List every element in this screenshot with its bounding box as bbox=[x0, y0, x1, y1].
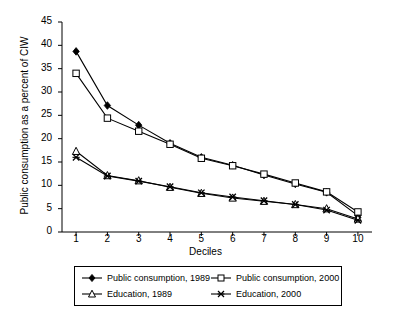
y-tick-label: 30 bbox=[30, 85, 52, 96]
x-tick-label: 1 bbox=[66, 233, 86, 244]
legend: Public consumption, 1989Public consumpti… bbox=[74, 266, 342, 306]
legend-item: Education, 2000 bbox=[210, 289, 339, 299]
x-tick-label: 2 bbox=[97, 233, 117, 244]
y-tick-label: 40 bbox=[30, 38, 52, 49]
legend-item: Public consumption, 1989 bbox=[81, 273, 210, 283]
x-tick-label: 5 bbox=[191, 233, 211, 244]
y-tick-label: 5 bbox=[30, 202, 52, 213]
x-cross-icon bbox=[210, 289, 232, 299]
axis-lines bbox=[58, 22, 372, 236]
y-axis-title: Public consumption as a percent of CIW bbox=[19, 16, 30, 236]
open-triangle-icon bbox=[81, 289, 103, 299]
y-tick-label: 25 bbox=[30, 108, 52, 119]
series-layer bbox=[72, 48, 361, 224]
legend-item: Education, 1989 bbox=[81, 289, 210, 299]
legend-label: Public consumption, 1989 bbox=[107, 273, 210, 283]
legend-label: Public consumption, 2000 bbox=[236, 273, 339, 283]
chart-container: Public consumption as a percent of CIW 0… bbox=[0, 0, 411, 320]
x-tick-label: 7 bbox=[254, 233, 274, 244]
y-tick-label: 45 bbox=[30, 15, 52, 26]
series-open-square bbox=[73, 70, 361, 215]
x-tick-label: 8 bbox=[285, 233, 305, 244]
open-square-icon bbox=[210, 273, 232, 283]
series-filled-diamond bbox=[73, 48, 361, 220]
y-tick-label: 35 bbox=[30, 62, 52, 73]
x-tick-label: 3 bbox=[129, 233, 149, 244]
legend-label: Education, 2000 bbox=[236, 289, 301, 299]
series-x-cross bbox=[72, 154, 361, 223]
legend-label: Education, 1989 bbox=[107, 289, 172, 299]
legend-item: Public consumption, 2000 bbox=[210, 273, 339, 283]
series-open-triangle bbox=[72, 147, 361, 222]
x-tick-label: 4 bbox=[160, 233, 180, 244]
x-tick-label: 10 bbox=[348, 233, 368, 244]
y-tick-label: 15 bbox=[30, 155, 52, 166]
y-tick-label: 10 bbox=[30, 178, 52, 189]
filled-diamond-icon bbox=[81, 273, 103, 283]
x-axis-title: Deciles bbox=[0, 246, 411, 257]
x-tick-label: 6 bbox=[223, 233, 243, 244]
y-tick-label: 0 bbox=[30, 225, 52, 236]
x-tick-label: 9 bbox=[317, 233, 337, 244]
y-tick-label: 20 bbox=[30, 132, 52, 143]
